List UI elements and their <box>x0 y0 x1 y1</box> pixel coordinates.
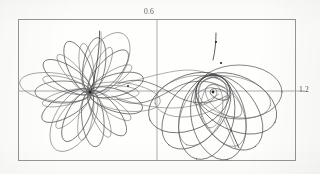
right-precessing-ellipses <box>139 33 287 165</box>
axis-label-top: 0.6 <box>144 7 154 16</box>
left-apex-spike <box>92 31 100 90</box>
figure-root: .cv{fill:none;stroke:#3d3d3d;stroke-widt… <box>0 0 320 174</box>
right-lower-tail <box>226 118 239 148</box>
node-dot-apex-top <box>215 41 217 43</box>
node-dot-upper-right <box>220 62 222 64</box>
right-focus-dot <box>212 91 215 94</box>
node-dot-mid-left <box>127 85 129 87</box>
left-focus-dot <box>89 91 92 94</box>
axis-label-right: 1.2 <box>299 85 309 94</box>
orbit-plot-canvas: .cv{fill:none;stroke:#3d3d3d;stroke-widt… <box>0 0 320 174</box>
